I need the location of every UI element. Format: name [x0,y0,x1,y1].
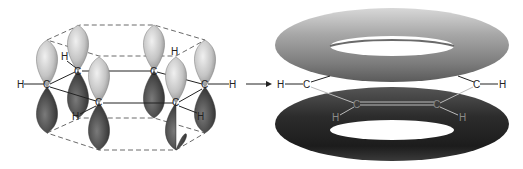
atom-label: C [433,99,440,110]
pi-ring-panel: H C C C H H C H [275,8,509,161]
benzene-orbital-diagram: H C H C C H C H C H C H [0,0,523,169]
upper-lobe [143,25,164,71]
lower-lobe [143,71,164,118]
atom-label: H [499,79,506,90]
atom-label: C [74,66,81,77]
lower-lobe [194,87,215,133]
atom-label: C [303,79,310,90]
diagram-canvas: H C H C C H C H C H C H [0,0,523,169]
atom-label: C [95,97,102,108]
atom-label: C [473,79,480,90]
lower-lobe [36,87,57,133]
reaction-arrow [246,81,272,87]
upper-pi-ring [275,8,509,82]
atom-label: C [201,79,208,90]
atom-label: C [353,99,360,110]
atom-label: C [172,97,179,108]
atom-label: H [229,79,236,90]
lower-pi-ring [275,87,509,161]
p-orbital-panel: H C H C C H C H C H C H [17,25,236,150]
atom-label: H [459,112,466,123]
atom-label: H [332,112,339,123]
atom-label: H [277,79,284,90]
atom-label: H [17,79,24,90]
atom-label: C [150,66,157,77]
atom-label: C [43,79,50,90]
atom-label: H [72,111,79,122]
atom-label: H [197,111,204,122]
atom-label: H [61,51,68,62]
atom-label: H [171,46,178,57]
lower-lobe [88,103,109,150]
